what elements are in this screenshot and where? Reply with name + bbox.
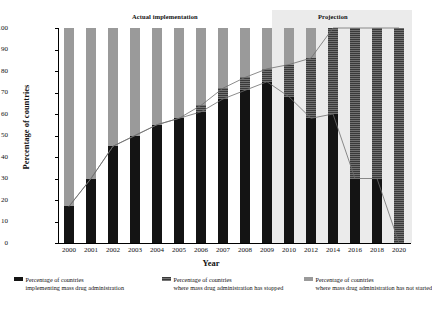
legend-item: Percentage of countries where mass drug … xyxy=(304,276,432,291)
y-axis-tick-mark xyxy=(55,243,58,244)
x-axis-tick-label: 2020 xyxy=(386,246,412,255)
legend-item-head: Percentage of countries xyxy=(316,276,374,283)
stopped-swatch xyxy=(162,277,171,281)
legend-item-body: implementing mass drug administration xyxy=(26,284,143,292)
y-axis-tick-label: 30 xyxy=(0,175,8,182)
lower-boundary-line xyxy=(69,82,399,243)
y-axis-tick-label: 0 xyxy=(0,240,8,247)
y-axis-tick-label: 90 xyxy=(0,46,8,53)
y-axis-tick-label: 100 xyxy=(0,25,8,32)
actual-implementation-label: Actual implementation xyxy=(132,13,198,20)
projection-label: Projection xyxy=(318,13,348,20)
y-axis-tick-label: 80 xyxy=(0,68,8,75)
legend-item-head: Percentage of countries xyxy=(174,276,232,283)
legend-item: Percentage of countries implementing mas… xyxy=(14,276,142,291)
chart-legend: Percentage of countries implementing mas… xyxy=(14,276,414,312)
not-started-swatch xyxy=(304,277,313,281)
upper-boundary-line xyxy=(69,28,399,206)
legend-item-head: Percentage of countries xyxy=(26,276,84,283)
x-axis-line xyxy=(58,243,411,244)
x-axis-tick-labels: 2000200120022003200420052006200720082009… xyxy=(58,246,410,258)
y-axis-tick-label: 20 xyxy=(0,197,8,204)
boundary-line-overlay xyxy=(58,28,410,243)
y-axis-tick-label: 70 xyxy=(0,89,8,96)
y-axis-tick-label: 10 xyxy=(0,218,8,225)
y-axis-tick-label: 50 xyxy=(0,132,8,139)
legend-item-body: where mass drug administration has stopp… xyxy=(174,284,291,292)
x-axis-title: Year xyxy=(0,258,422,268)
y-axis-tick-label: 40 xyxy=(0,154,8,161)
implementing-swatch xyxy=(14,277,23,281)
legend-item: Percentage of countries where mass drug … xyxy=(162,276,290,291)
y-axis-title: Percentage of countries xyxy=(21,47,31,207)
y-axis-tick-label: 60 xyxy=(0,111,8,118)
legend-item-body: where mass drug administration has not s… xyxy=(316,284,432,292)
